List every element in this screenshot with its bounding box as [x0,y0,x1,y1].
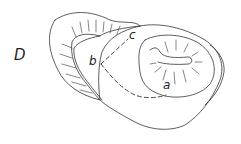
slit [150,48,192,65]
diagram-canvas: D b c a [0,0,241,144]
point-label-c: c [129,29,136,41]
point-label-a: a [163,79,170,91]
main-body-outline [99,25,222,130]
inner-lobe-outline [74,36,102,100]
opening-outline [139,35,214,97]
panel-label: D [14,48,26,63]
dashed-line-b-to-c [101,39,128,64]
point-label-b: b [89,55,97,67]
organ-drawing [0,0,241,144]
